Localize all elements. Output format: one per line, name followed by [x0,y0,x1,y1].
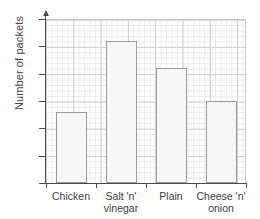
x-axis-label-line: Cheese 'n' [190,190,252,202]
y-axis-title: Number of packets [13,0,25,138]
bar-chart: Number of packets 051015202530 ChickenSa… [0,0,260,219]
bar [56,112,87,183]
y-tick-mark [39,183,46,184]
x-axis-label: Cheese 'n'onion [190,190,252,214]
y-axis-line [45,14,46,184]
x-tick-mark [196,183,197,188]
grid-top-edge [46,19,246,20]
bar [206,101,237,183]
y-tick-mark [39,19,46,20]
x-axis-label-line: vinegar [90,202,152,214]
x-axis-label-line: onion [190,202,252,214]
x-tick-mark [96,183,97,188]
bar [156,68,187,183]
x-tick-mark [146,183,147,188]
y-tick-mark [39,101,46,102]
plot-area [46,19,246,183]
x-tick-mark [46,183,47,188]
y-axis-arrow-icon [43,10,49,16]
y-tick-mark [39,128,46,129]
y-tick-mark [39,46,46,47]
y-tick-mark [39,74,46,75]
grid-right-edge [245,19,246,183]
bar [106,41,137,183]
x-tick-mark [246,183,247,188]
y-tick-mark [39,156,46,157]
